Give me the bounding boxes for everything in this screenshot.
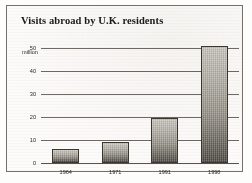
x-axis-tick-label: 1991: [159, 169, 171, 175]
bar: [52, 149, 79, 163]
axis-baseline: [41, 163, 239, 164]
y-axis-tick-label: 20: [30, 114, 36, 120]
bar: [102, 142, 129, 163]
bar-texture: [152, 119, 177, 162]
page-frame: Visits abroad by U.K. residents million …: [6, 5, 243, 172]
x-axis-tick-label: 1998: [208, 169, 220, 175]
x-axis-tick-label: 1964: [60, 169, 72, 175]
bars-group: 1964197119911998: [41, 37, 239, 163]
bar-texture: [103, 143, 128, 162]
y-axis-tick-label: 30: [30, 91, 36, 97]
y-axis-tick-label: 0: [33, 160, 36, 166]
chart-title: Visits abroad by U.K. residents: [21, 15, 163, 26]
y-axis-tick-label: 50: [30, 45, 36, 51]
bar-texture: [53, 150, 78, 162]
x-axis-tick-label: 1971: [109, 169, 121, 175]
y-axis-tick-label: 10: [30, 137, 36, 143]
y-axis-tick-label: 40: [30, 68, 36, 74]
bar: [201, 46, 228, 163]
bar-texture: [202, 47, 227, 162]
chart-screenshot: Visits abroad by U.K. residents million …: [0, 0, 252, 183]
bar: [151, 118, 178, 163]
plot-area: 01020304050 1964197119911998: [41, 37, 239, 163]
